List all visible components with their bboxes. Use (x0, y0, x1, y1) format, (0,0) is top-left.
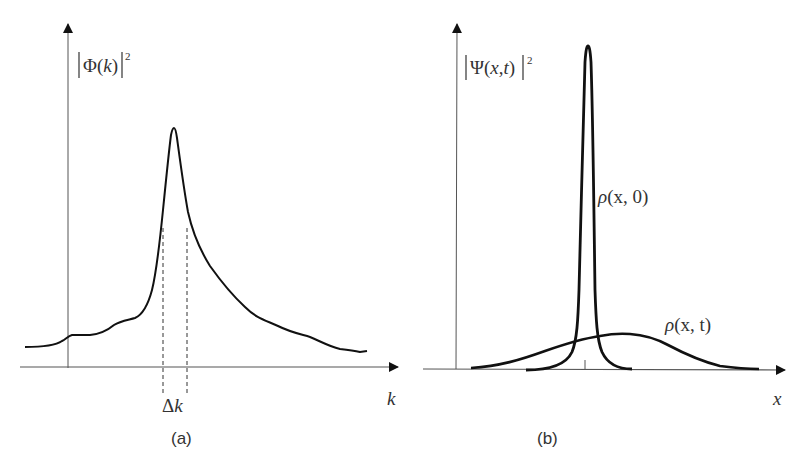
caption-b: (b) (537, 429, 558, 448)
momentum-distribution-curve (25, 128, 367, 352)
caption-a: (a) (171, 429, 192, 448)
rho-x-0-label: ρ(x, 0) (597, 186, 648, 208)
panel-a: Φ(k) 2 Δk k (a) (20, 24, 398, 448)
figure: Φ(k) 2 Δk k (a) Ψ(x,t) 2 (0, 0, 807, 472)
rho-x-t-label: ρ(x, t) (664, 314, 711, 336)
rho-x-0-curve (526, 46, 632, 370)
panel-b: Ψ(x,t) 2 ρ(x, 0) ρ(x, t) x (b) (423, 24, 785, 448)
x-axis-b (423, 369, 785, 370)
svg-text:Φ(k): Φ(k) (83, 55, 118, 77)
x-axis-label-a: k (387, 388, 396, 409)
y-axis-label-a: Φ(k) 2 (79, 50, 131, 78)
delta-k-label: Δk (162, 395, 183, 416)
y-axis-label-b: Ψ(x,t) 2 (466, 54, 533, 80)
svg-text:Ψ(x,t): Ψ(x,t) (470, 57, 515, 79)
svg-text:2: 2 (527, 54, 533, 66)
y-axis-b (456, 24, 457, 369)
rho-x-t-curve (471, 334, 759, 369)
svg-text:2: 2 (125, 50, 131, 62)
x-axis-label-b: x (772, 388, 782, 409)
